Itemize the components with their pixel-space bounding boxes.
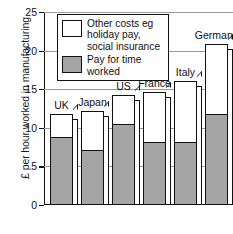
bar-side-face-uk xyxy=(73,119,78,205)
legend-label-pay-line2: worked xyxy=(87,66,141,77)
tick-label-20: 20 xyxy=(25,45,37,57)
bar-side-face-france xyxy=(166,97,171,205)
tick-label-10: 10 xyxy=(25,122,37,134)
bar-side-face-us xyxy=(135,100,140,205)
bar-group-us: US xyxy=(112,95,135,205)
bar-japan xyxy=(81,111,104,205)
bar-segment-paid-uk xyxy=(51,137,72,204)
bar-side-face-germany xyxy=(228,49,233,205)
legend-label-other-costs-line1: Other costs eg xyxy=(87,18,160,29)
y-axis-line xyxy=(44,12,45,205)
bar-italy xyxy=(174,81,197,205)
gridline-25 xyxy=(44,12,233,13)
bar-segment-paid-us xyxy=(113,124,134,204)
bar-side-face-japan xyxy=(104,116,109,205)
tick-label-15: 15 xyxy=(25,83,37,95)
bar-label-italy: Italy xyxy=(176,66,195,78)
bar-uk xyxy=(50,114,73,205)
bar-group-germany: Germany xyxy=(205,44,228,205)
bar-label-germany: Germany xyxy=(195,29,233,41)
chart-legend: Other costs eg holiday pay, social insur… xyxy=(57,14,169,81)
tick-mark-15 xyxy=(39,89,44,90)
tick-mark-25 xyxy=(39,12,44,13)
legend-item-other-costs: Other costs eg holiday pay, social insur… xyxy=(62,18,165,52)
bar-segment-paid-france xyxy=(144,142,165,204)
bar-group-uk: UK xyxy=(50,114,73,205)
tick-label-5: 5 xyxy=(31,160,37,172)
bar-group-france: France xyxy=(143,92,166,205)
tick-mark-5 xyxy=(39,166,44,167)
bar-germany xyxy=(205,44,228,205)
bar-segment-paid-italy xyxy=(175,142,196,204)
legend-label-other-costs-line3: social insurance xyxy=(87,41,160,52)
legend-item-pay-for-time-worked: Pay for time worked xyxy=(62,54,165,77)
bar-us xyxy=(112,95,135,205)
tick-label-25: 25 xyxy=(25,6,37,18)
bar-segment-paid-japan xyxy=(82,150,103,204)
tick-mark-0 xyxy=(39,205,44,206)
bar-label-us: US xyxy=(116,80,131,92)
tick-mark-10 xyxy=(39,128,44,129)
legend-label-other-costs-line2: holiday pay, xyxy=(87,29,160,40)
bar-label-japan: Japan xyxy=(78,96,107,108)
legend-swatch-other-costs xyxy=(62,20,82,37)
legend-swatch-pay-for-time-worked xyxy=(62,56,82,73)
legend-label-other-costs: Other costs eg holiday pay, social insur… xyxy=(87,18,160,52)
bar-side-face-italy xyxy=(197,86,202,205)
bar-france xyxy=(143,92,166,205)
bar-label-uk: UK xyxy=(54,99,69,111)
bar-segment-paid-germany xyxy=(206,114,227,204)
tick-label-0: 0 xyxy=(31,199,37,211)
bar-group-italy: Italy xyxy=(174,81,197,205)
bar-group-japan: Japan xyxy=(81,111,104,205)
y-axis-title: £ per hour worked in manufacturing xyxy=(19,8,31,188)
legend-label-pay-line1: Pay for time xyxy=(87,54,141,65)
legend-label-pay-for-time-worked: Pay for time worked xyxy=(87,54,141,77)
bar-chart: £ per hour worked in manufacturing 25 20… xyxy=(0,0,233,234)
bar-top-face-italy xyxy=(197,71,202,81)
tick-mark-20 xyxy=(39,51,44,52)
